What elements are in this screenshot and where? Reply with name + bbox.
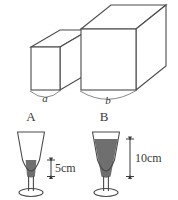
geometry-figure: a b A B (0, 0, 178, 200)
glass-b-dimension-arrow (126, 137, 134, 180)
cube-small-front-face (31, 47, 60, 90)
glass-b-liquid (94, 139, 117, 178)
glass-a-height-label: 5cm (55, 161, 76, 175)
glass-a-foot (19, 189, 43, 197)
glass-b: 10cm (93, 132, 163, 197)
cube-large-front-face (81, 29, 136, 90)
cube-large: b (80, 5, 166, 106)
cube-small-name-label: A (26, 109, 36, 124)
glass-b-height-label: 10cm (135, 151, 162, 165)
glass-a: 5cm (18, 132, 77, 197)
glass-a-dimension-arrow (47, 158, 55, 180)
figure-canvas: a b A B (0, 0, 178, 200)
cube-small: a (30, 30, 89, 104)
cube-large-name-label: B (100, 109, 109, 124)
glass-b-foot (94, 189, 118, 197)
cube-large-edge-label: b (105, 94, 111, 106)
cube-small-edge-label: a (42, 92, 48, 104)
